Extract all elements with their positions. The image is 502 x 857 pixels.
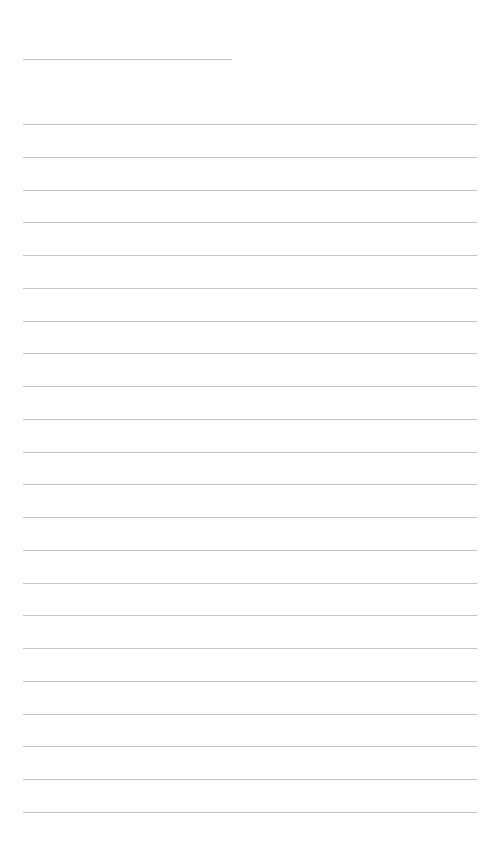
ruled-line[interactable] bbox=[23, 124, 477, 125]
ruled-line[interactable] bbox=[23, 419, 477, 420]
ruled-line[interactable] bbox=[23, 190, 477, 191]
ruled-line[interactable] bbox=[23, 222, 477, 223]
ruled-line[interactable] bbox=[23, 157, 477, 158]
notepaper-page bbox=[0, 0, 502, 857]
ruled-line[interactable] bbox=[23, 812, 477, 813]
ruled-line[interactable] bbox=[23, 288, 477, 289]
ruled-line[interactable] bbox=[23, 583, 477, 584]
ruled-line[interactable] bbox=[23, 353, 477, 354]
ruled-line[interactable] bbox=[23, 321, 477, 322]
ruled-line[interactable] bbox=[23, 681, 477, 682]
ruled-line[interactable] bbox=[23, 779, 477, 780]
ruled-line[interactable] bbox=[23, 452, 477, 453]
ruled-line[interactable] bbox=[23, 386, 477, 387]
title-line[interactable] bbox=[23, 59, 232, 60]
ruled-line[interactable] bbox=[23, 648, 477, 649]
ruled-line[interactable] bbox=[23, 615, 477, 616]
ruled-line[interactable] bbox=[23, 255, 477, 256]
ruled-line[interactable] bbox=[23, 484, 477, 485]
ruled-line[interactable] bbox=[23, 550, 477, 551]
ruled-line[interactable] bbox=[23, 746, 477, 747]
ruled-line[interactable] bbox=[23, 714, 477, 715]
ruled-line[interactable] bbox=[23, 517, 477, 518]
